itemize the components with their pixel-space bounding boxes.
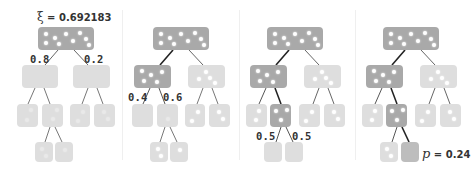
root-node bbox=[267, 27, 323, 50]
branch-prob-right: 0.6 bbox=[163, 91, 183, 103]
tree-panel-1: ξ = 0.692183 0.8 0.2 bbox=[0, 0, 117, 170]
leaf-node bbox=[70, 104, 90, 127]
leaf-node bbox=[285, 142, 303, 162]
p-value: 0.24 bbox=[446, 149, 471, 160]
leaf-node bbox=[324, 104, 345, 127]
leaf-node bbox=[55, 142, 73, 162]
branch-prob-left: 0.5 bbox=[256, 130, 276, 142]
leaf-node bbox=[386, 104, 407, 127]
selected-leaf-node bbox=[401, 142, 419, 162]
leaf-node bbox=[35, 142, 53, 162]
branch-prob-right: 0.2 bbox=[84, 53, 104, 65]
leaf-node bbox=[132, 104, 153, 127]
node-left bbox=[134, 65, 171, 88]
leaf-node bbox=[17, 104, 38, 127]
leaf-node bbox=[440, 104, 461, 127]
p-label: p = 0.24 bbox=[422, 146, 470, 161]
leaf-node bbox=[94, 104, 115, 127]
node-left bbox=[250, 65, 287, 88]
tree-panel-2: 0.4 0.6 bbox=[115, 0, 232, 170]
root-node bbox=[383, 27, 439, 50]
xi-value: 0.692183 bbox=[59, 12, 112, 23]
tree-panel-4: p = 0.24 bbox=[347, 0, 464, 170]
node-right bbox=[420, 65, 457, 88]
leaf-node bbox=[42, 104, 63, 127]
node-right bbox=[73, 65, 110, 88]
leaf-node bbox=[246, 104, 267, 127]
branch-prob-right: 0.5 bbox=[292, 130, 312, 142]
leaf-node bbox=[380, 142, 398, 162]
leaf-node bbox=[299, 104, 320, 127]
tree-panel-3: 0.5 0.5 bbox=[231, 0, 348, 170]
leaf-node bbox=[270, 104, 291, 127]
leaf-node bbox=[150, 142, 168, 162]
leaf-node bbox=[264, 142, 282, 162]
node-right bbox=[304, 65, 341, 88]
xi-label: ξ = 0.692183 bbox=[37, 10, 111, 24]
leaf-node bbox=[362, 104, 383, 127]
branch-prob-left: 0.8 bbox=[30, 53, 50, 65]
leaf-node bbox=[209, 104, 230, 127]
leaf-node bbox=[170, 142, 188, 162]
node-left bbox=[366, 65, 403, 88]
xi-symbol: ξ bbox=[37, 10, 44, 24]
node-left bbox=[22, 65, 58, 88]
root-node bbox=[38, 27, 94, 50]
branch-prob-left: 0.4 bbox=[128, 91, 148, 103]
node-right bbox=[188, 65, 225, 88]
root-node bbox=[153, 27, 209, 50]
leaf-node bbox=[185, 104, 205, 127]
leaf-node bbox=[157, 104, 178, 127]
leaf-node bbox=[415, 104, 436, 127]
